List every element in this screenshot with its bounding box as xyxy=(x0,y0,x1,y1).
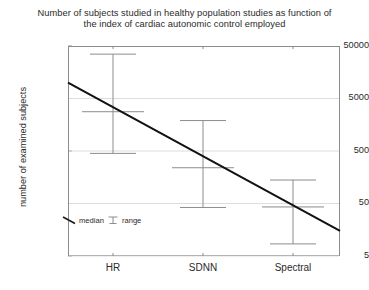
plot-graphics xyxy=(0,0,369,290)
legend-median-label: median xyxy=(79,216,104,225)
trend-line xyxy=(68,83,340,231)
chart-legend: median range xyxy=(62,213,141,227)
median-line-icon xyxy=(62,215,76,225)
range-error-bar-icon xyxy=(107,215,119,225)
legend-range-label: range xyxy=(122,216,141,225)
chart-container: Number of subjects studied in healthy po… xyxy=(0,0,369,290)
